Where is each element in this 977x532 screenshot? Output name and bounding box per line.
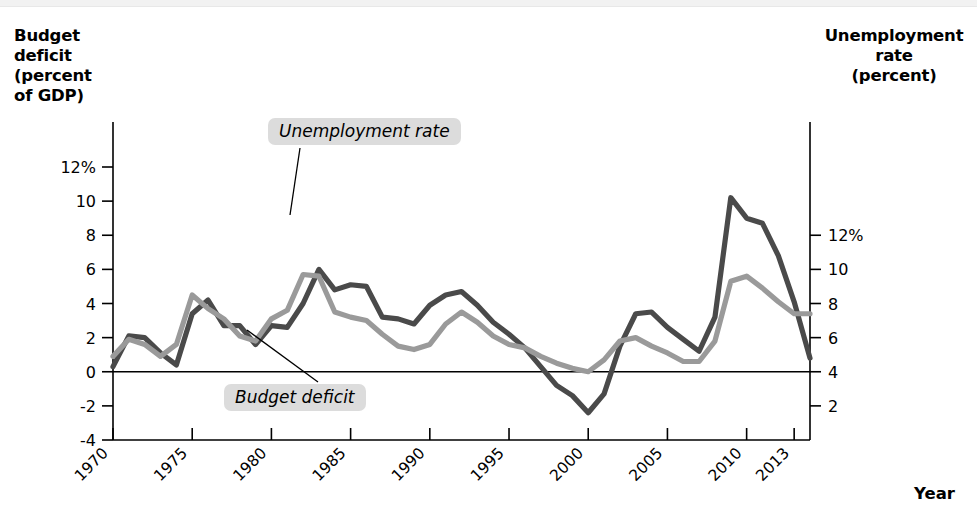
x-axis-tick-label: 1995 [467,444,508,485]
x-axis-tick-label: 2010 [705,444,746,485]
right-axis-group: 12%108642 [810,122,864,440]
right-axis-tick-label: 6 [828,329,838,348]
left-axis-tick-label: -2 [80,397,96,416]
left-axis-tick-label: 0 [86,363,96,382]
chart-plot-area: 12%1086420-2-4 12%108642 197019751980198… [0,0,977,532]
x-axis-tick-label: 2013 [752,444,793,485]
x-axis-tick-label: 1980 [230,444,271,485]
left-axis-tick-label: 4 [86,295,96,314]
x-axis-tick-label: 1990 [388,444,429,485]
x-axis-tick-label: 1985 [309,444,350,485]
x-axis-tick-label: 1970 [71,444,112,485]
x-axis-tick-label: 1975 [150,444,191,485]
callout-budget-deficit: Budget deficit [224,384,366,411]
leader-line-deficit [247,330,318,382]
right-axis-tick-label: 4 [828,363,838,382]
right-axis-tick-label: 8 [828,295,838,314]
left-axis-tick-label: 8 [86,226,96,245]
series-line-budget-deficit [113,198,810,413]
right-axis-tick-label: 12% [828,226,864,245]
left-axis-tick-label: -4 [80,431,96,450]
left-axis-group: 12%1086420-2-4 [60,122,113,450]
series-group [113,198,810,413]
chart-figure: Budgetdeficit(percentof GDP) Unemploymen… [0,0,977,532]
left-axis-tick-label: 6 [86,260,96,279]
callout-leader-lines [247,148,318,382]
x-axis-group: 1970197519801985199019952000200520102013 [71,428,810,485]
leader-line-unemployment [290,148,300,215]
right-axis-tick-label: 2 [828,397,838,416]
left-axis-tick-label: 2 [86,329,96,348]
callout-unemployment-rate: Unemployment rate [268,118,461,145]
x-axis-tick-label: 2000 [546,444,587,485]
left-axis-tick-label: 12% [60,158,96,177]
left-axis-tick-label: 10 [76,192,96,211]
x-axis-tick-label: 2005 [626,444,667,485]
right-axis-tick-label: 10 [828,260,848,279]
